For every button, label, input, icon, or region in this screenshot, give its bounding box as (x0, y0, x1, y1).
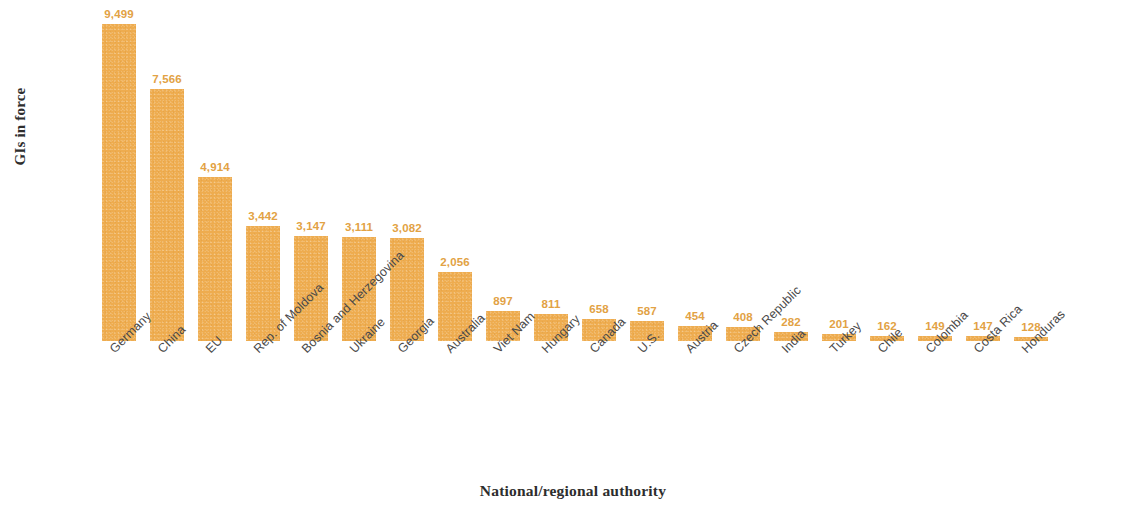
bar[interactable] (150, 89, 184, 341)
bar-group: 3,082 (383, 0, 431, 341)
bar-value-label: 587 (623, 305, 671, 317)
bar-value-label: 658 (575, 303, 623, 315)
bar-group: 7,566 (143, 0, 191, 341)
plot-area: 9,4997,5664,9143,4423,1473,1113,0822,056… (95, 0, 1140, 341)
bar-group: 4,914 (191, 0, 239, 341)
bar-chart: GIs in force 9,4997,5664,9143,4423,1473,… (0, 0, 1146, 515)
bar-group: 408 (719, 0, 767, 341)
bar-value-label: 7,566 (143, 73, 191, 85)
bar-group: 201 (815, 0, 863, 341)
bar-value-label: 3,082 (383, 222, 431, 234)
bar-group: 162 (863, 0, 911, 341)
bar-value-label: 9,499 (95, 8, 143, 20)
x-axis-title: National/regional authority (0, 482, 1146, 500)
bar[interactable] (198, 177, 232, 341)
bar-value-label: 897 (479, 295, 527, 307)
bar-value-label: 3,111 (335, 221, 383, 233)
bar-group: 897 (479, 0, 527, 341)
bar-group: 3,442 (239, 0, 287, 341)
bar-value-label: 3,442 (239, 210, 287, 222)
bar-value-label: 162 (863, 320, 911, 332)
bar-value-label: 4,914 (191, 161, 239, 173)
bar[interactable] (102, 24, 136, 341)
bar-group: 658 (575, 0, 623, 341)
bar-group: 587 (623, 0, 671, 341)
bar-group: 128 (1007, 0, 1055, 341)
bar-value-label: 2,056 (431, 256, 479, 268)
bar-group: 9,499 (95, 0, 143, 341)
bar-group: 149 (911, 0, 959, 341)
bar-value-label: 3,147 (287, 220, 335, 232)
bar-group: 147 (959, 0, 1007, 341)
bar-value-label: 811 (527, 298, 575, 310)
bar-group: 454 (671, 0, 719, 341)
bar-group: 811 (527, 0, 575, 341)
bar-group: 2,056 (431, 0, 479, 341)
y-axis-title: GIs in force (12, 57, 29, 197)
